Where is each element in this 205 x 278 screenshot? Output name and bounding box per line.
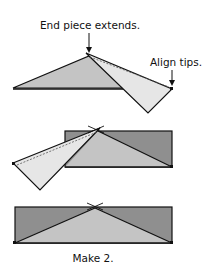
- piecing-diagram: End piece extends. Align tips. Make 2.: [0, 0, 205, 278]
- step-2-group: [12, 126, 173, 190]
- step-3-left-tip-marker: [13, 241, 16, 244]
- step-2-tip-marker: [170, 165, 173, 168]
- make-count-label: Make 2.: [72, 252, 113, 264]
- end-piece-label: End piece extends.: [40, 19, 140, 31]
- step-2-left-tip-marker: [12, 162, 15, 165]
- end-piece-arrow-head: [86, 47, 92, 53]
- step-3-right-tip-marker: [170, 241, 173, 244]
- step-3-group: Make 2.: [13, 203, 173, 264]
- align-tips-label: Align tips.: [150, 56, 202, 68]
- step-1-tip-marker: [170, 87, 173, 90]
- align-tips-arrow-head: [169, 80, 175, 86]
- step-1-group: End piece extends. Align tips.: [13, 19, 202, 113]
